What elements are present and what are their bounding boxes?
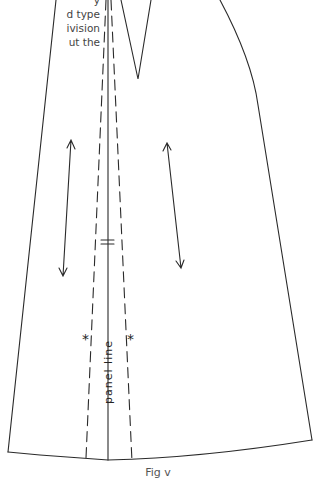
grainline-arrow-right <box>163 143 184 268</box>
pattern-drawing: * * <box>0 0 316 488</box>
match-mark-left: * <box>82 331 89 347</box>
right-side-seam <box>220 0 312 440</box>
left-side-seam <box>8 0 56 452</box>
grainline-arrow-left <box>59 140 75 276</box>
figure-caption: Fig v <box>0 466 316 479</box>
pattern-figure: y d type ivision ut the * * <box>0 0 316 488</box>
waist-dart <box>121 0 151 79</box>
match-mark-right: * <box>127 331 134 347</box>
hem-line <box>8 440 312 460</box>
panel-line-label: panel line <box>102 340 115 404</box>
